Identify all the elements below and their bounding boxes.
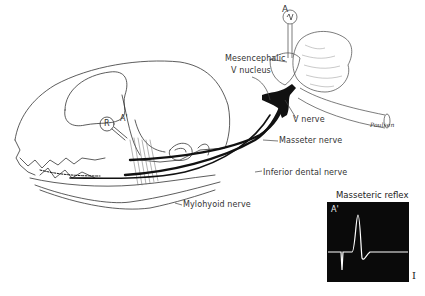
inset-channel-label: A' xyxy=(331,205,339,214)
skull-outline xyxy=(15,61,230,162)
diagram-canvas: A Mesencephalic V nucleus V nerve Masset… xyxy=(0,0,425,296)
label-masseter-nerve: Masseter nerve xyxy=(279,136,342,145)
label-inferior-dental-nerve: Inferior dental nerve xyxy=(263,168,347,177)
orbit xyxy=(65,72,127,126)
label-v-nerve: V nerve xyxy=(293,115,325,124)
inferior-dental-nerve xyxy=(125,100,283,175)
mandible xyxy=(30,175,215,186)
label-mylohyoid-nerve: Mylohyoid nerve xyxy=(183,200,251,209)
cerebellum xyxy=(293,31,352,92)
inset-title: Masseteric reflex xyxy=(336,190,408,200)
label-signature: Poulsen xyxy=(370,120,394,129)
scale-bar: I xyxy=(412,270,416,281)
label-stimulus-r: R xyxy=(104,119,110,128)
skull-illustration xyxy=(0,0,425,296)
label-v-nucleus: V nucleus xyxy=(231,66,271,75)
brainstem xyxy=(300,88,385,115)
masseter-nerve xyxy=(130,100,285,160)
label-electrode-a: A xyxy=(282,5,288,14)
label-electrode-a-prime: A' xyxy=(120,114,128,123)
label-mesencephalic: Mesencephalic xyxy=(225,54,286,63)
oscilloscope-trace xyxy=(327,202,409,282)
upper-teeth xyxy=(20,158,105,168)
